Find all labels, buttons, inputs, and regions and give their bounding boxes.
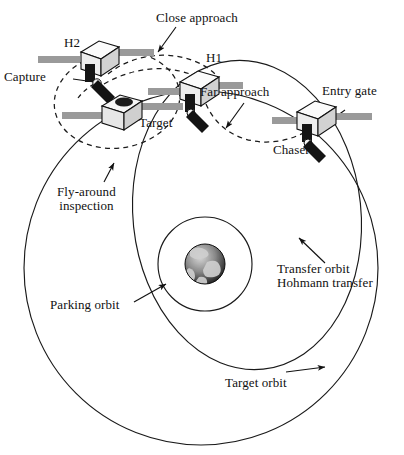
label-fly-around-inspection: Fly-around inspection [57, 185, 116, 212]
h2-docking-port [85, 64, 95, 82]
target-grapple-fixture [115, 98, 133, 107]
label-h2: H2 [64, 36, 80, 50]
label-capture: Capture [4, 70, 46, 84]
label-chaser: Chaser [273, 143, 310, 157]
target-orbit-leader [286, 367, 325, 372]
target-solar-panel-left [62, 112, 102, 119]
label-parking-orbit: Parking orbit [50, 298, 120, 312]
fly-around-leader [104, 163, 114, 182]
earth-globe [183, 244, 225, 286]
parking-orbit-leader [134, 284, 166, 302]
label-target: Target [139, 116, 172, 130]
label-entry-gate: Entry gate [322, 84, 377, 98]
label-close-approach: Close approach [156, 11, 238, 25]
close-approach-leader [158, 27, 176, 52]
label-far-approach: Far approach [200, 85, 269, 99]
spacecraft-h2 [38, 41, 154, 104]
label-h1: H1 [206, 51, 222, 65]
h2-solar-panel-left [38, 56, 80, 63]
target-solar-panel-right [141, 103, 183, 110]
label-target-orbit: Target orbit [225, 376, 287, 390]
orbital-rendezvous-diagram: Close approach H2 H1 Capture Target Far … [0, 0, 404, 455]
transfer-orbit-leader [299, 238, 325, 263]
h1-robotic-arm [186, 109, 209, 133]
diagram-canvas [0, 0, 404, 455]
far-approach-leader [226, 103, 244, 128]
label-transfer-orbit: Transfer orbit Hohmann transfer [277, 262, 373, 289]
